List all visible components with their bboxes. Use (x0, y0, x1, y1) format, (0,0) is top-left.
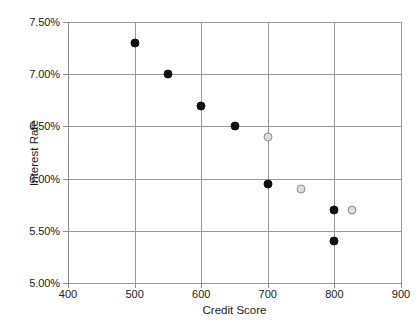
data-point (163, 70, 172, 79)
y-axis-tick-label: 6.00% (29, 173, 60, 185)
y-axis-tick-label: 5.50% (29, 225, 60, 237)
y-axis-tick (63, 22, 68, 23)
gridline-vertical (268, 22, 269, 283)
y-axis-tick-label: 7.00% (29, 68, 60, 80)
y-axis-title: Interest Rate (28, 83, 40, 223)
data-point (197, 101, 206, 110)
gridline-vertical (401, 22, 402, 283)
plot-area (68, 22, 401, 283)
gridline-vertical (135, 22, 136, 283)
scatter-chart: Interest Rate Credit Score 5.00%5.50%6.0… (0, 0, 420, 326)
data-point (297, 185, 306, 194)
x-axis-tick-label: 400 (59, 288, 77, 300)
data-point (263, 132, 272, 141)
x-axis-tick-label: 900 (392, 288, 410, 300)
y-axis-tick (63, 231, 68, 232)
gridline-horizontal (68, 179, 401, 180)
gridline-horizontal (68, 22, 401, 23)
gridline-horizontal (68, 283, 401, 284)
y-axis-tick-label: 5.00% (29, 277, 60, 289)
data-point (330, 205, 339, 214)
x-axis-tick-label: 500 (125, 288, 143, 300)
x-axis-tick-label: 600 (192, 288, 210, 300)
y-axis-tick-label: 7.50% (29, 16, 60, 28)
data-point (130, 38, 139, 47)
y-axis-tick (63, 74, 68, 75)
y-axis-title-container: Interest Rate (8, 22, 28, 283)
data-point (330, 237, 339, 246)
gridline-horizontal (68, 231, 401, 232)
x-axis-title: Credit Score (68, 304, 401, 316)
y-axis-tick-label: 6.50% (29, 120, 60, 132)
x-axis-tick-label: 800 (325, 288, 343, 300)
y-axis-tick (63, 126, 68, 127)
gridline-vertical (201, 22, 202, 283)
data-point (263, 179, 272, 188)
gridline-horizontal (68, 74, 401, 75)
data-point (348, 205, 357, 214)
y-axis-tick (63, 179, 68, 180)
data-point (230, 122, 239, 131)
x-axis-tick-label: 700 (259, 288, 277, 300)
